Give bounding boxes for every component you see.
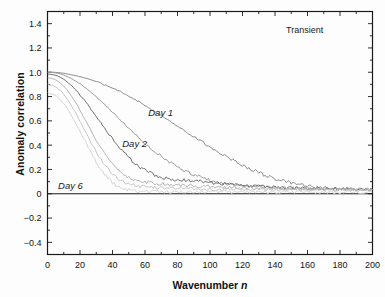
- y-axis-tick-label: −0.4: [24, 238, 42, 248]
- x-axis-tick-label: 0: [45, 260, 50, 270]
- x-axis-tick-label: 180: [332, 260, 347, 270]
- y-axis-tick-label: 0.4: [29, 141, 42, 151]
- chart-canvas: 020406080100120140160180200−0.4−0.200.20…: [0, 0, 385, 297]
- x-axis-tick-label: 140: [267, 260, 282, 270]
- y-axis-tick-label: 1.2: [29, 43, 42, 53]
- x-axis-tick-label: 200: [365, 260, 380, 270]
- x-axis-tick-label: 120: [235, 260, 250, 270]
- y-axis-tick-label: 0.6: [29, 116, 42, 126]
- y-axis-tick-label: 1.4: [29, 19, 42, 29]
- x-axis-tick-label: 60: [140, 260, 150, 270]
- x-axis-title-variable: n: [241, 279, 247, 291]
- series-line-day-6: [48, 93, 373, 194]
- x-axis-title-main: Wavenumber: [173, 279, 241, 291]
- y-axis-tick-label: 0.8: [29, 92, 42, 102]
- x-axis-tick-label: 100: [202, 260, 217, 270]
- series-line-day-2: [48, 72, 373, 190]
- series-label-day-1: Day 1: [148, 107, 173, 118]
- series-line-day-4: [48, 78, 373, 191]
- y-axis-tick-label: 1.0: [29, 68, 42, 78]
- y-axis-title: Anomaly correlation: [14, 44, 26, 204]
- x-axis-tick-label: 80: [172, 260, 182, 270]
- y-axis-tick-label: 0.2: [29, 165, 42, 175]
- x-axis-tick-label: 160: [300, 260, 315, 270]
- series-line-day-5: [48, 84, 373, 191]
- figure-container: 020406080100120140160180200−0.4−0.200.20…: [0, 0, 385, 297]
- series-label-day-2: Day 2: [122, 138, 147, 149]
- x-axis-tick-label: 40: [107, 260, 117, 270]
- series-line-day-3: [48, 74, 373, 190]
- series-line-day-1: [48, 72, 373, 191]
- y-axis-tick-label: 0: [36, 189, 41, 199]
- panel-note-transient: Transient: [286, 25, 323, 35]
- y-axis-tick-label: −0.2: [24, 213, 42, 223]
- x-axis-tick-label: 20: [75, 260, 85, 270]
- x-axis-title: Wavenumber n: [47, 279, 373, 291]
- plot-frame: [48, 12, 373, 255]
- series-label-day-6: Day 6: [58, 180, 83, 191]
